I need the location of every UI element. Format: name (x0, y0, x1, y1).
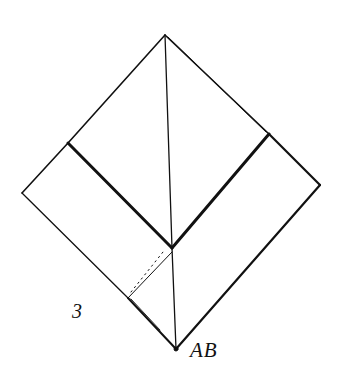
right-flap-outer (269, 134, 320, 185)
left-flap-inner-edge (128, 252, 172, 298)
folding-diagram (0, 0, 347, 387)
center-crease (165, 35, 176, 349)
step-number: 3 (72, 300, 82, 323)
left-lower-edge (128, 298, 176, 349)
left-flap-outer-top (22, 143, 68, 193)
top-left-edge (68, 35, 165, 143)
right-flap-fold-edge (172, 134, 269, 248)
left-flap-outer-bottom (22, 193, 128, 298)
point-label-ab: AB (190, 338, 218, 363)
bottom-point (174, 347, 178, 351)
left-lower-edge-double (131, 299, 160, 330)
right-lower-edge (176, 185, 320, 349)
left-flap-dotted (131, 252, 163, 292)
top-right-edge-double (168, 37, 266, 132)
left-flap-fold-edge (68, 143, 172, 248)
